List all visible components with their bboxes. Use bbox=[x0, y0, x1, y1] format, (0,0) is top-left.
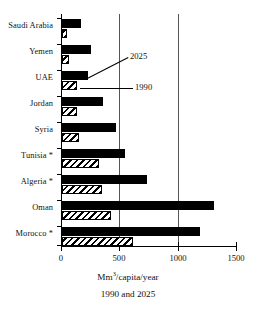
chart-subtitle: 1990 and 2025 bbox=[0, 289, 256, 300]
annotation-label-1990: 1990 bbox=[135, 83, 152, 92]
category-label-algeria: Algeria * bbox=[21, 177, 53, 186]
annotation-line-1990 bbox=[80, 88, 133, 89]
x-tick-label-1500: 1500 bbox=[216, 254, 256, 263]
bar-1990-saudi-arabia bbox=[62, 29, 67, 38]
bar-1990-tunisia bbox=[62, 159, 99, 168]
bar-1990-algeria bbox=[62, 185, 102, 194]
y-tick-3 bbox=[57, 96, 61, 97]
category-label-uae: UAE bbox=[35, 73, 53, 82]
x-tick-label-500: 500 bbox=[99, 254, 139, 263]
bar-2025-yemen bbox=[62, 45, 91, 54]
x-axis-line bbox=[61, 246, 237, 247]
bar-2025-tunisia bbox=[62, 149, 125, 158]
bar-2025-morocco bbox=[62, 227, 200, 236]
x-axis-title-post: /capita/year bbox=[116, 272, 159, 282]
category-axis-labels: Saudi Arabia Yemen UAE Jordan Syria Tuni… bbox=[0, 14, 57, 246]
x-tick-label-0: 0 bbox=[41, 254, 81, 263]
x-tick-label-1000: 1000 bbox=[158, 254, 198, 263]
x-tick-1000 bbox=[178, 242, 179, 251]
y-tick-2 bbox=[57, 70, 61, 71]
bar-1990-jordan bbox=[62, 107, 77, 116]
bar-1990-yemen bbox=[62, 55, 69, 64]
category-label-oman: Oman bbox=[32, 203, 53, 212]
y-tick-7 bbox=[57, 200, 61, 201]
x-axis-title: Mm3/capita/year bbox=[0, 272, 256, 283]
bar-2025-jordan bbox=[62, 97, 103, 106]
bar-2025-saudi-arabia bbox=[62, 19, 81, 28]
bar-chart: Saudi Arabia Yemen UAE Jordan Syria Tuni… bbox=[0, 0, 256, 315]
y-tick-5 bbox=[57, 148, 61, 149]
bar-1990-uae bbox=[62, 81, 77, 90]
category-label-saudi-arabia: Saudi Arabia bbox=[8, 21, 53, 30]
bar-1990-syria bbox=[62, 133, 79, 142]
gridline-500 bbox=[119, 14, 120, 246]
y-tick-8 bbox=[57, 226, 61, 227]
y-tick-0 bbox=[57, 18, 61, 19]
bar-1990-oman bbox=[62, 211, 111, 220]
x-axis-title-pre: Mm bbox=[97, 272, 112, 282]
category-label-jordan: Jordan bbox=[30, 99, 53, 108]
category-label-morocco: Morocco * bbox=[16, 229, 53, 238]
gridline-1000 bbox=[178, 14, 179, 246]
category-label-tunisia: Tunisia * bbox=[21, 151, 53, 160]
bar-2025-syria bbox=[62, 123, 116, 132]
plot-area bbox=[61, 14, 236, 246]
bar-2025-algeria bbox=[62, 175, 147, 184]
annotation-label-2025: 2025 bbox=[130, 52, 147, 61]
y-tick-1 bbox=[57, 44, 61, 45]
category-label-yemen: Yemen bbox=[29, 47, 53, 56]
bar-1990-morocco bbox=[62, 237, 133, 246]
y-tick-4 bbox=[57, 122, 61, 123]
y-tick-9 bbox=[57, 245, 61, 246]
bar-2025-uae bbox=[62, 71, 88, 80]
x-tick-1500 bbox=[236, 242, 237, 251]
bar-2025-oman bbox=[62, 201, 214, 210]
category-label-syria: Syria bbox=[35, 125, 53, 134]
y-tick-6 bbox=[57, 174, 61, 175]
